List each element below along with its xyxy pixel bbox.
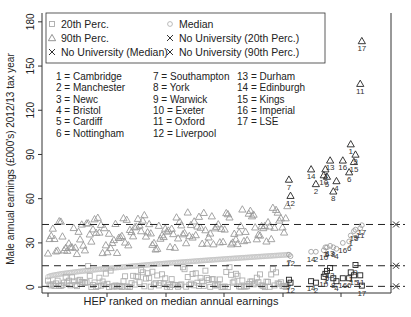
triangle-marker: [352, 151, 359, 157]
key-entry: 6 = Nottingham: [56, 128, 124, 139]
triangle-marker: [327, 157, 334, 163]
triangle-marker: [81, 247, 88, 253]
triangle-marker: [205, 234, 212, 240]
key-entry: 2 = Manchester: [56, 82, 126, 93]
triangle-marker: [357, 80, 364, 86]
legend-label: Median: [179, 18, 214, 30]
triangle-marker: [102, 242, 109, 248]
triangle-marker: [208, 213, 215, 219]
square-marker: [309, 279, 314, 284]
triangle-marker: [308, 166, 315, 172]
y-tick-label: 150: [25, 57, 36, 74]
square-marker: [180, 265, 185, 270]
legend-label: No University (90th Perc.): [179, 46, 299, 58]
square-marker: [233, 271, 238, 276]
square-marker: [224, 269, 229, 274]
point-label: 7: [287, 183, 292, 192]
square-marker: [87, 273, 92, 278]
y-tick-label: 90: [25, 148, 36, 160]
square-marker: [185, 275, 190, 280]
square-marker: [240, 278, 245, 283]
triangle-marker: [70, 224, 77, 230]
triangle-marker: [203, 240, 210, 246]
square-marker: [150, 269, 155, 274]
triangle-marker: [59, 233, 66, 239]
square-marker: [270, 266, 275, 271]
triangle-marker: [155, 222, 162, 228]
square-marker: [103, 271, 108, 276]
x-axis-label: HEP ranked on median annual earnings: [84, 295, 279, 307]
square-marker: [182, 267, 187, 272]
point-label: 12: [286, 259, 295, 268]
triangle-marker: [237, 222, 244, 228]
key-entry: 15 = Kings: [237, 94, 285, 105]
key-entry: 9 = Warwick: [153, 94, 208, 105]
triangle-marker: [88, 238, 95, 244]
triangle-marker: [253, 236, 260, 242]
triangle-marker: [141, 211, 148, 217]
square-marker: [205, 276, 210, 281]
scatter-chart: 7771212121414142221010103335551313138884…: [0, 0, 411, 317]
triangle-marker: [77, 236, 84, 242]
square-marker: [217, 277, 222, 282]
p20-series: [46, 263, 290, 289]
y-tick-label: 30: [25, 237, 36, 249]
key-entry: 4 = Bristol: [56, 105, 101, 116]
square-marker: [235, 273, 240, 278]
triangle-marker: [339, 157, 346, 163]
key-entry: 11 = Oxford: [153, 116, 205, 127]
point-label: 17: [357, 44, 366, 53]
triangle-marker: [200, 209, 207, 215]
y-tick-label: 180: [25, 13, 36, 30]
triangle-marker: [242, 228, 249, 234]
triangle-marker: [268, 235, 275, 241]
key-entry: 8 = York: [153, 82, 190, 93]
square-marker: [155, 273, 160, 278]
point-label: 4: [334, 184, 339, 193]
point-label: 16: [338, 163, 347, 172]
triangle-marker: [358, 37, 365, 43]
p90-series: [44, 202, 291, 256]
square-marker: [274, 270, 279, 275]
point-label: 14: [307, 172, 316, 181]
y-tick-label: 0: [25, 284, 36, 290]
point-label: 11: [356, 87, 365, 96]
point-label: 13: [326, 163, 335, 172]
circle-marker: [340, 240, 345, 245]
triangle-marker: [130, 233, 137, 239]
point-label: 8: [331, 194, 336, 203]
square-marker: [129, 281, 134, 286]
triangle-marker: [80, 242, 87, 248]
legend-label: No University (Median): [61, 46, 168, 58]
triangle-marker: [333, 177, 340, 183]
square-marker: [123, 274, 128, 279]
triangle-marker: [73, 250, 80, 256]
key-entry: 16 = Imperial: [237, 105, 295, 116]
triangle-marker: [91, 216, 98, 222]
key-entry: 3 = Newc: [56, 94, 98, 105]
key-entry: 10 = Exeter: [153, 105, 205, 116]
square-marker: [258, 272, 263, 277]
legend-item: No University (Median): [49, 46, 168, 58]
key-entry: 12 = Liverpool: [153, 128, 216, 139]
square-marker: [353, 263, 358, 268]
point-label: 6: [347, 175, 352, 184]
triangle-marker: [49, 225, 56, 231]
legend-label: 90th Perc.: [61, 32, 109, 44]
triangle-marker: [285, 176, 292, 182]
square-marker: [97, 275, 102, 280]
y-tick-label: 60: [25, 193, 36, 205]
key-entry: 14 = Edinburgh: [237, 82, 305, 93]
triangle-marker: [347, 141, 354, 147]
labelled-heps: 7771212121414142221010103335551313138884…: [285, 37, 367, 297]
point-label: 5: [325, 180, 330, 189]
legend-label: 20th Perc.: [61, 18, 109, 30]
key-entry: 17 = LSE: [237, 116, 279, 127]
point-label: 12: [286, 199, 295, 208]
point-label: 9: [353, 157, 358, 166]
circle-marker: [309, 249, 314, 254]
legend-label: No University (20th Perc.): [179, 32, 299, 44]
square-marker: [266, 279, 271, 284]
circle-marker: [313, 249, 318, 254]
triangle-marker: [112, 220, 119, 226]
